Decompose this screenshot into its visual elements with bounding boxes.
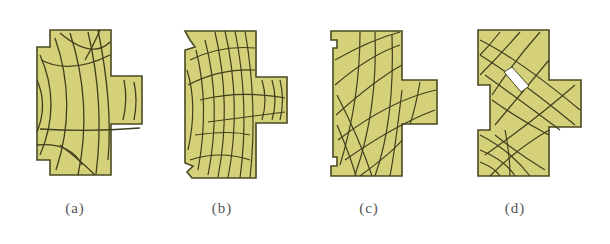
panel-c-shape	[331, 31, 437, 176]
panel-d-shape	[478, 30, 581, 176]
panel-c-label: (c)	[349, 200, 389, 217]
panel-d-label: (d)	[495, 200, 535, 217]
panel-a-label: (a)	[55, 200, 95, 217]
panel-b-shape	[185, 31, 287, 178]
panel-b-label: (b)	[202, 200, 242, 217]
panel-a-shape	[37, 30, 142, 175]
